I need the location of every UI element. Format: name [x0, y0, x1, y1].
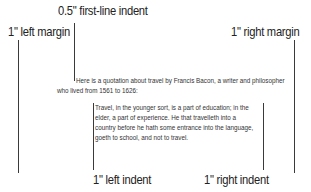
quote-line: Travel, in the younger sort, is a part o… — [95, 104, 249, 111]
paragraph-first-line: Here is a quotation about travel by Fran… — [76, 77, 285, 85]
quote-line: elder, a part of experience. He that tra… — [95, 114, 236, 121]
first-line-indent-line — [74, 23, 75, 81]
first-line-indent-label: 0.5" first-line indent — [58, 3, 148, 18]
quote-line: country before he hath some entrance int… — [95, 124, 253, 131]
right-margin-line — [294, 40, 295, 173]
right-indent-label: 1" right indent — [204, 172, 269, 187]
paragraph-second-line: who lived from 1561 to 1626: — [57, 87, 138, 95]
right-indent-line — [263, 103, 264, 170]
left-indent-line — [93, 103, 94, 170]
left-margin-label: 1" left margin — [8, 24, 70, 39]
left-margin-line — [18, 40, 19, 173]
left-indent-label: 1" left indent — [93, 172, 151, 187]
quote-line: goeth to school, and not to travel. — [95, 134, 188, 141]
right-margin-label: 1" right margin — [231, 24, 299, 39]
